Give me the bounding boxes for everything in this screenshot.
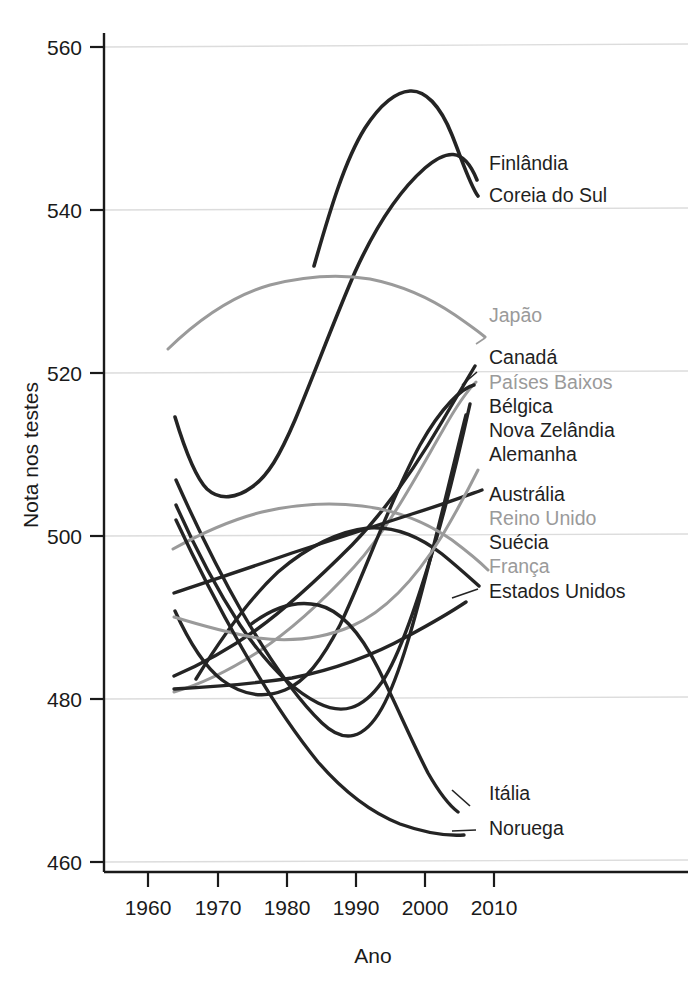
leader-estados-unidos xyxy=(452,589,478,598)
series-label-japao: Japão xyxy=(489,304,542,326)
x-axis-title: Ano xyxy=(354,944,391,967)
x-tick-marks xyxy=(148,872,494,887)
series-label-franca: França xyxy=(489,555,550,577)
series-label-alemanha: Alemanha xyxy=(489,443,577,465)
x-tick-label-1990: 1990 xyxy=(333,896,380,919)
series-label-suecia: Suécia xyxy=(489,531,549,553)
series-curves xyxy=(168,91,488,835)
y-tick-label-560: 560 xyxy=(47,36,82,59)
y-tick-label-460: 460 xyxy=(47,851,82,874)
y-tick-label-480: 480 xyxy=(47,688,82,711)
series-label-australia: Austrália xyxy=(489,483,565,505)
series-label-reino-unido: Reino Unido xyxy=(489,507,596,529)
y-axis-title: Nota nos testes xyxy=(19,382,42,528)
series-label-belgica: Bélgica xyxy=(489,395,553,417)
chart-canvas: 560 540 520 500 480 460 1960 1970 1980 1… xyxy=(0,0,693,1004)
series-line-finlandia xyxy=(175,154,477,496)
series-line-coreia-do-sul xyxy=(314,91,478,266)
line-chart: 560 540 520 500 480 460 1960 1970 1980 1… xyxy=(0,0,693,1004)
gridline-460 xyxy=(103,860,688,862)
gridline-540 xyxy=(103,208,688,210)
series-label-estados-unidos: Estados Unidos xyxy=(489,580,626,602)
series-label-noruega: Noruega xyxy=(489,817,564,839)
leader-italia xyxy=(452,790,470,806)
x-tick-label-2010: 2010 xyxy=(471,896,518,919)
series-label-paises-baixos: Países Baixos xyxy=(489,371,613,393)
series-label-canada: Canadá xyxy=(489,346,557,368)
axis-lines xyxy=(104,33,688,872)
x-tick-label-2000: 2000 xyxy=(402,896,449,919)
series-label-italia: Itália xyxy=(489,782,530,804)
leader-noruega xyxy=(452,830,476,831)
series-label-finlandia: Finlândia xyxy=(489,152,568,174)
gridline-560 xyxy=(103,44,688,47)
gridline-480 xyxy=(103,697,688,699)
y-tick-label-520: 520 xyxy=(47,362,82,385)
x-tick-label-1980: 1980 xyxy=(264,896,311,919)
series-label-coreia-do-sul: Coreia do Sul xyxy=(489,184,607,206)
y-tick-label-540: 540 xyxy=(47,199,82,222)
x-tick-label-1960: 1960 xyxy=(125,896,172,919)
leader-japao xyxy=(476,338,485,344)
y-tick-label-500: 500 xyxy=(47,525,82,548)
x-tick-label-1970: 1970 xyxy=(195,896,242,919)
series-labels: Finlândia Coreia do Sul Japão Canadá Paí… xyxy=(489,152,626,839)
series-label-nova-zelandia: Nova Zelândia xyxy=(489,419,615,441)
y-tick-marks xyxy=(90,47,104,862)
gridlines xyxy=(103,44,688,862)
